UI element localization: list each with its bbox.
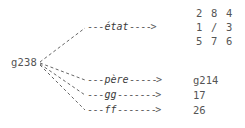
edge-ff[interactable]: --- ff ------- > [87,104,161,116]
edge-gg[interactable]: --- gg ------- > [87,89,161,101]
edge-gg-label: gg [104,89,117,101]
etat-grid-cell: 4 [226,6,241,20]
edge-line-pere [40,63,85,80]
edge-ff-dash-after: ------- [117,104,156,116]
etat-grid-row: 5 7 6 [196,34,241,48]
ff-value: 26 [193,104,206,117]
edge-gg-arrowhead-icon: > [155,89,161,101]
etat-grid-cell: 7 [211,34,226,48]
root-node-label[interactable]: g238 [11,56,37,68]
edge-line-etat [40,28,85,62]
edge-pere[interactable]: --- père ----- > [87,74,162,86]
edge-pere-arrowhead-icon: > [156,74,162,86]
edge-ff-label: ff [104,104,117,116]
edge-pere-dash-after: ----- [129,74,157,86]
etat-grid-cell: 6 [226,34,241,48]
edge-gg-dash-after: ------- [117,89,156,101]
etat-grid-row: 1 / 3 [196,20,241,34]
edge-etat-dash-after: ---- [129,21,151,33]
edge-pere-label: père [104,74,129,86]
edge-line-gg [40,64,85,95]
edge-etat-arrowhead-icon: > [150,21,156,33]
edge-gg-dash-before: --- [87,89,104,101]
etat-grid-cell: 1 [196,20,211,34]
edge-etat-label: état [104,21,129,33]
diagram-canvas: g238 --- état ---- > --- père ----- > --… [0,0,245,128]
edge-etat[interactable]: --- état ---- > [87,21,156,33]
etat-grid-cell: 5 [196,34,211,48]
pere-value[interactable]: g214 [193,74,218,87]
etat-grid-cell: 3 [226,20,241,34]
edge-ff-arrowhead-icon: > [155,104,161,116]
etat-grid-cell-blank: / [211,20,226,34]
gg-value: 17 [193,89,206,102]
etat-grid-cell: 2 [196,6,211,20]
edge-ff-dash-before: --- [87,104,104,116]
etat-grid-row: 2 8 4 [196,6,241,20]
edge-etat-dash-before: --- [87,21,104,33]
etat-grid: 2 8 4 1 / 3 5 7 6 [196,6,241,48]
edge-pere-dash-before: --- [87,74,104,86]
etat-grid-cell: 8 [211,6,226,20]
